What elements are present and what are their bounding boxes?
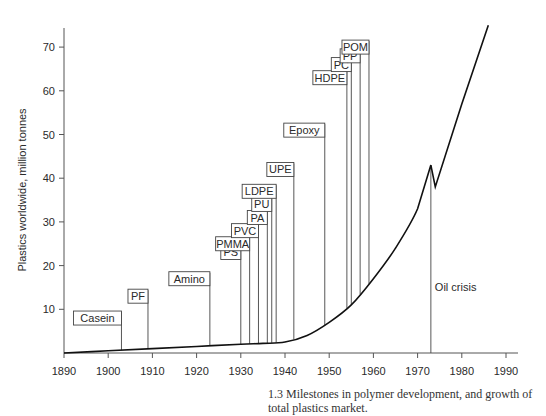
annotation-casein: Casein bbox=[73, 311, 121, 350]
x-tick-label: 1950 bbox=[317, 365, 341, 377]
x-tick-label: 1990 bbox=[494, 365, 518, 377]
figure-caption: 1.3 Milestones in polymer development, a… bbox=[268, 387, 538, 415]
annotation-label: Oil crisis bbox=[435, 281, 477, 293]
annotation-ps: PS bbox=[221, 245, 241, 344]
x-tick-label: 1900 bbox=[96, 365, 120, 377]
annotation-label: PA bbox=[250, 212, 265, 224]
y-tick-label: 50 bbox=[43, 129, 55, 141]
annotation-pp: PP bbox=[340, 49, 360, 295]
annotation-hdpe: HDPE bbox=[313, 71, 347, 309]
x-tick-label: 1920 bbox=[184, 365, 208, 377]
annotation-label: PU bbox=[254, 198, 269, 210]
annotation-label: POM bbox=[343, 41, 368, 53]
annotation-amino: Amino bbox=[169, 272, 210, 346]
x-tick-label: 1890 bbox=[52, 365, 76, 377]
annotation-label: UPE bbox=[269, 163, 292, 175]
annotation-label: LDPE bbox=[245, 185, 274, 197]
annotation-epoxy: Epoxy bbox=[284, 123, 325, 325]
x-tick-label: 1960 bbox=[361, 365, 385, 377]
y-axis-label: Plastics worldwide, million tonnes bbox=[16, 108, 28, 272]
chart-area: 1020304050607018901900191019201930194019… bbox=[0, 0, 546, 416]
annotation-label: Casein bbox=[80, 312, 114, 324]
y-tick-label: 70 bbox=[43, 41, 55, 53]
x-tick-label: 1930 bbox=[229, 365, 253, 377]
x-tick-label: 1970 bbox=[405, 365, 429, 377]
milestone-annotations: CaseinPFAminoPSPMMAPVCPAPULDPEUPEEpoxyHD… bbox=[73, 40, 476, 353]
annotation-label: PF bbox=[131, 290, 145, 302]
x-tick-label: 1910 bbox=[140, 365, 164, 377]
y-tick-label: 40 bbox=[43, 172, 55, 184]
y-tick-label: 60 bbox=[43, 85, 55, 97]
annotation-pf: PF bbox=[128, 289, 148, 349]
annotation-pc: PC bbox=[331, 58, 351, 305]
annotation-label: PMMA bbox=[216, 238, 250, 250]
annotation-label: HDPE bbox=[315, 72, 346, 84]
annotation-label: Epoxy bbox=[289, 124, 320, 136]
y-tick-label: 30 bbox=[43, 216, 55, 228]
annotation-oil-crisis: Oil crisis bbox=[431, 165, 477, 353]
y-tick-label: 20 bbox=[43, 260, 55, 272]
x-tick-label: 1940 bbox=[273, 365, 297, 377]
x-tick-label: 1980 bbox=[450, 365, 474, 377]
y-tick-label: 10 bbox=[43, 303, 55, 315]
annotation-label: PVC bbox=[234, 225, 257, 237]
annotation-label: Amino bbox=[174, 273, 205, 285]
